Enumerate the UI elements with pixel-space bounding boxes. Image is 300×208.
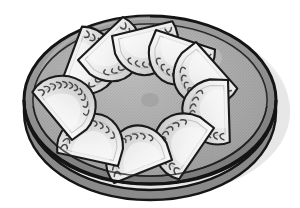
illustration-canvas	[0, 0, 300, 208]
dumpling-plate-illustration: Grayscale line drawing of a round plate …	[0, 0, 300, 208]
plate-center-gap	[141, 93, 159, 107]
